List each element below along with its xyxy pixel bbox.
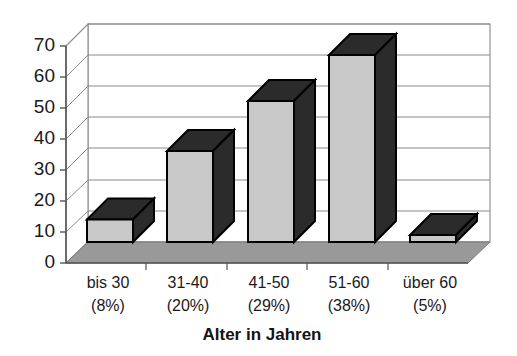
bar-side-face — [375, 34, 396, 242]
bar-31-40[interactable] — [167, 130, 234, 242]
chart-container: 70 60 50 40 30 20 10 0 — [0, 0, 517, 356]
bar-side-face — [294, 80, 315, 242]
bar-front-face — [410, 235, 456, 242]
bar-41-50[interactable] — [248, 80, 315, 242]
x-percent-ueber-60: (5%) — [413, 297, 447, 314]
y-axis-label-70: 70 — [34, 34, 55, 55]
y-axis-label-20: 20 — [34, 189, 55, 210]
y-axis-label-60: 60 — [34, 65, 55, 86]
bar-front-face — [167, 151, 213, 242]
y-axis-label-30: 30 — [34, 158, 55, 179]
bar-front-face — [248, 101, 294, 242]
x-percent-31-40: (20%) — [167, 297, 210, 314]
x-label-ueber-60: über 60 — [403, 274, 457, 291]
x-label-31-40: 31-40 — [168, 274, 209, 291]
bar-chart-3d: 70 60 50 40 30 20 10 0 — [0, 0, 517, 356]
y-axis-label-10: 10 — [34, 220, 55, 241]
x-percent-41-50: (29%) — [248, 297, 291, 314]
x-percent-51-60: (38%) — [328, 297, 371, 314]
bar-front-face — [87, 220, 133, 243]
x-axis-title: Alter in Jahren — [202, 325, 321, 344]
x-label-51-60: 51-60 — [329, 274, 370, 291]
y-axis-label-0: 0 — [44, 251, 55, 272]
x-label-41-50: 41-50 — [249, 274, 290, 291]
x-label-bis-30: bis 30 — [87, 274, 130, 291]
x-percent-bis-30: (8%) — [91, 297, 125, 314]
bar-side-face — [213, 130, 234, 242]
y-axis-label-40: 40 — [34, 127, 55, 148]
left-wall — [66, 24, 88, 263]
y-axis-label-50: 50 — [34, 96, 55, 117]
bar-51-60[interactable] — [329, 34, 396, 242]
bar-front-face — [329, 55, 375, 242]
floor — [66, 242, 490, 263]
